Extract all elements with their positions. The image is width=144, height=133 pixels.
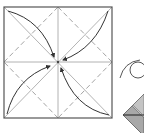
center-point <box>57 61 59 63</box>
origami-diagram <box>0 0 144 133</box>
turn-over-icon <box>120 60 144 78</box>
next-step-folded-paper <box>123 94 144 133</box>
arrow-bottom-left-icon <box>7 66 50 114</box>
